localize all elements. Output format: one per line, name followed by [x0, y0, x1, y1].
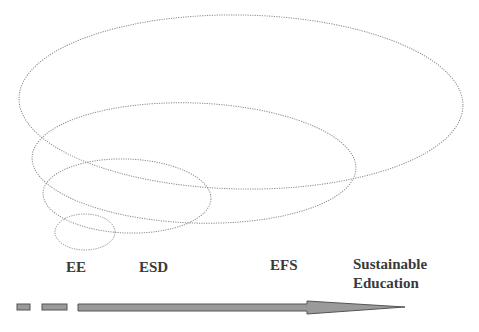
label-esd: ESD [139, 258, 168, 277]
label-sustainable-education-line2: Education [353, 274, 419, 293]
ellipse-ee [55, 214, 115, 250]
label-efs: EFS [270, 256, 298, 275]
progression-arrow [17, 301, 405, 314]
ellipse-sustainable-education [18, 11, 465, 193]
ellipse-esd [42, 156, 212, 236]
arrow-dash-1 [17, 304, 30, 310]
label-ee: EE [66, 258, 86, 277]
label-sustainable-education-line1: Sustainable [353, 255, 427, 274]
ellipse-efs [30, 97, 358, 228]
arrow-dash-2 [42, 304, 67, 310]
arrow-shaft-head [78, 301, 405, 314]
